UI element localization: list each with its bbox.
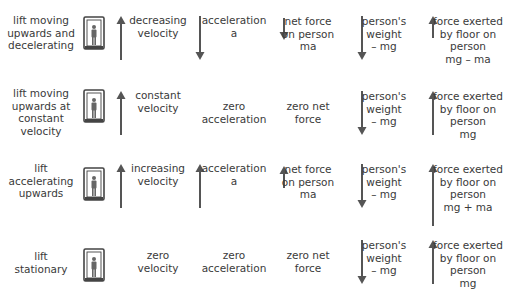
weight-label-line: – mg — [358, 188, 410, 201]
lift-illustration — [83, 16, 105, 48]
velocity-label-line: increasing — [126, 162, 190, 175]
scenario-label: liftstationary — [2, 250, 80, 275]
weight-label-line: weight — [358, 252, 410, 265]
floor-force-label-line: person — [426, 188, 510, 201]
floor-force-label-line: by floor on — [426, 176, 510, 189]
scenario-label-line: upwards and — [2, 27, 80, 40]
weight-label-line: person's — [358, 90, 410, 103]
net-force-label: net forceon personma — [276, 163, 340, 201]
acceleration-label: accelerationa — [198, 14, 270, 39]
lift-scenario-row: lift movingupwards anddecelerating decre… — [0, 12, 513, 88]
floor-force-label-line: mg – ma — [426, 53, 510, 66]
velocity-label-line: velocity — [126, 262, 190, 275]
floor-force-label: force exertedby floor onpersonmg + ma — [426, 163, 510, 213]
lift-illustration — [83, 89, 105, 121]
scenario-label-line: upwards at — [2, 100, 80, 113]
weight-label-line: person's — [358, 239, 410, 252]
lift-scenario-row: liftstationary zerovelocityzeroaccelerat… — [0, 236, 513, 306]
lift-icon — [83, 248, 105, 282]
scenario-label-line: constant — [2, 112, 80, 125]
weight-label: person'sweight– mg — [358, 163, 410, 201]
scenario-label-line: upwards — [2, 187, 80, 200]
net-force-label-line: on person — [276, 28, 340, 41]
lift-illustration — [83, 248, 105, 280]
weight-label-line: weight — [358, 176, 410, 189]
weight-label-line: – mg — [358, 40, 410, 53]
velocity-label-line: zero — [126, 249, 190, 262]
floor-force-label-line: force exerted — [426, 239, 510, 252]
floor-force-label-line: force exerted — [426, 15, 510, 28]
velocity-label-line: constant — [126, 89, 190, 102]
net-force-label-line: zero net — [276, 100, 340, 113]
scenario-label-line: accelerating — [2, 175, 80, 188]
velocity-label-line: velocity — [126, 175, 190, 188]
weight-label-line: person's — [358, 15, 410, 28]
scenario-label-line: lift — [2, 250, 80, 263]
net-force-label-line: net force — [276, 163, 340, 176]
floor-force-label-line: force exerted — [426, 90, 510, 103]
floor-force-label-line: by floor on — [426, 28, 510, 41]
weight-label-line: weight — [358, 28, 410, 41]
acceleration-label: zeroacceleration — [198, 249, 270, 274]
velocity-label: constantvelocity — [126, 89, 190, 114]
scenario-label-line: lift moving — [2, 87, 80, 100]
floor-force-label-line: person — [426, 264, 510, 277]
velocity-up-arrow-icon — [116, 16, 126, 60]
weight-label-line: weight — [358, 103, 410, 116]
scenario-label-line: lift — [2, 162, 80, 175]
floor-force-label: force exertedby floor onpersonmg — [426, 90, 510, 140]
acceleration-label-line: acceleration — [198, 262, 270, 275]
net-force-label-line: ma — [276, 188, 340, 201]
acceleration-label-line: acceleration — [198, 162, 270, 175]
scenario-label-line: stationary — [2, 263, 80, 276]
net-force-label: zero netforce — [276, 249, 340, 274]
acceleration-label-line: a — [198, 27, 270, 40]
scenario-label: lift movingupwards atconstantvelocity — [2, 87, 80, 137]
velocity-up-arrow-icon — [116, 164, 126, 208]
net-force-label: zero netforce — [276, 100, 340, 125]
floor-force-label-line: person — [426, 40, 510, 53]
floor-force-label-line: by floor on — [426, 103, 510, 116]
acceleration-label-line: acceleration — [198, 113, 270, 126]
net-force-label-line: ma — [276, 40, 340, 53]
velocity-label: zerovelocity — [126, 249, 190, 274]
acceleration-label: accelerationa — [198, 162, 270, 187]
velocity-label-line: velocity — [126, 102, 190, 115]
weight-label-line: person's — [358, 163, 410, 176]
scenario-label-line: velocity — [2, 125, 80, 138]
acceleration-label-line: acceleration — [198, 14, 270, 27]
scenario-label: lift movingupwards anddecelerating — [2, 14, 80, 52]
net-force-label-line: net force — [276, 15, 340, 28]
lift-icon — [83, 16, 105, 50]
floor-force-label-line: mg + ma — [426, 201, 510, 214]
lift-illustration — [83, 167, 105, 199]
velocity-label-line: decreasing — [126, 14, 190, 27]
scenario-label-line: decelerating — [2, 39, 80, 52]
velocity-up-arrow-icon — [116, 91, 126, 135]
velocity-label-line: velocity — [126, 27, 190, 40]
net-force-label-line: force — [276, 262, 340, 275]
scenario-label-line: lift moving — [2, 14, 80, 27]
net-force-label-line: force — [276, 113, 340, 126]
weight-label-line: – mg — [358, 115, 410, 128]
lift-scenario-row: liftacceleratingupwards increasingveloci… — [0, 160, 513, 236]
floor-force-label: force exertedby floor onpersonmg — [426, 239, 510, 289]
net-force-label-line: on person — [276, 176, 340, 189]
weight-label-line: – mg — [358, 264, 410, 277]
acceleration-label: zeroacceleration — [198, 100, 270, 125]
floor-force-label-line: mg — [426, 128, 510, 141]
scenario-label: liftacceleratingupwards — [2, 162, 80, 200]
floor-force-label-line: mg — [426, 277, 510, 290]
acceleration-label-line: zero — [198, 249, 270, 262]
acceleration-label-line: a — [198, 175, 270, 188]
lift-icon — [83, 167, 105, 201]
floor-force-label: force exertedby floor onpersonmg – ma — [426, 15, 510, 65]
lift-icon — [83, 89, 105, 123]
floor-force-label-line: person — [426, 115, 510, 128]
acceleration-label-line: zero — [198, 100, 270, 113]
floor-force-label-line: force exerted — [426, 163, 510, 176]
weight-label: person'sweight– mg — [358, 15, 410, 53]
lift-scenario-row: lift movingupwards atconstantvelocity co… — [0, 87, 513, 163]
weight-label: person'sweight– mg — [358, 239, 410, 277]
net-force-label-line: zero net — [276, 249, 340, 262]
